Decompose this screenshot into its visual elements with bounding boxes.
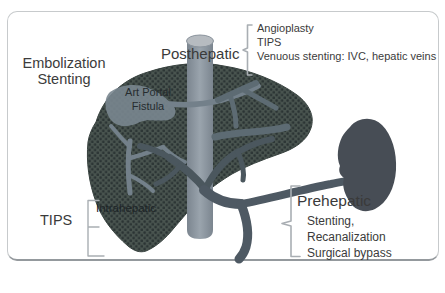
fistula-line: Art Portal: [110, 85, 186, 99]
embolization-stenting-label: Embolization Stenting: [16, 55, 112, 87]
prehepatic-item: Recanalization: [307, 229, 392, 245]
prehepatic-items: Stenting, Recanalization Surgical bypass: [307, 213, 392, 261]
stenting-line: Stenting: [16, 71, 112, 87]
posthepatic-item: TIPS: [257, 35, 436, 49]
embolization-line: Embolization: [16, 55, 112, 71]
art-portal-fistula-label: Art Portal Fistula: [110, 85, 186, 113]
superior-mesenteric-vein: [239, 204, 248, 259]
prehepatic-item: Stenting,: [307, 213, 392, 229]
inferior-vena-cava: [187, 41, 213, 239]
posthepatic-item: Angioplasty: [257, 21, 436, 35]
prehepatic-item: Surgical bypass: [307, 245, 392, 261]
posthepatic-items: Angioplasty TIPS Venuous stenting: IVC, …: [257, 21, 436, 63]
posthepatic-label: Posthepatic: [161, 45, 239, 62]
intrahepatic-label: Intrahepatic: [96, 202, 156, 214]
posthepatic-item: Venuous stenting: IVC, hepatic veins: [257, 49, 436, 63]
fistula-line: Fistula: [110, 99, 186, 113]
prehepatic-label: Prehepatic: [297, 192, 371, 210]
posthepatic-bracket: [243, 25, 252, 75]
tips-label: TIPS: [40, 212, 72, 228]
figure-canvas: Embolization Stenting Posthepatic Angiop…: [0, 0, 445, 293]
